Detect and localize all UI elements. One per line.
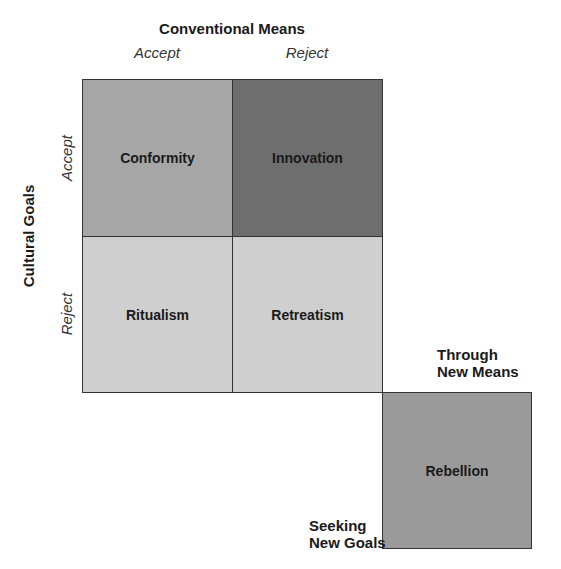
cell-rebellion: Rebellion [382, 392, 532, 549]
cell-label: Retreatism [271, 307, 343, 323]
cell-retreatism: Retreatism [232, 236, 383, 393]
cell-label: Ritualism [126, 307, 189, 323]
note-line: New Means [437, 363, 519, 380]
cell-conformity: Conformity [82, 79, 233, 237]
column-label-reject: Reject [232, 44, 382, 61]
through-new-means-note: Through New Means [437, 346, 519, 380]
cell-innovation: Innovation [232, 79, 383, 237]
row-label-reject: Reject [58, 293, 75, 336]
column-label-accept: Accept [82, 44, 232, 61]
cell-label: Conformity [120, 150, 195, 166]
cell-label: Rebellion [425, 463, 488, 479]
cell-ritualism: Ritualism [82, 236, 233, 393]
row-label-accept: Accept [58, 135, 75, 181]
cultural-goals-title: Cultural Goals [20, 185, 37, 288]
cell-label: Innovation [272, 150, 343, 166]
note-line: New Goals [309, 534, 386, 551]
conventional-means-title: Conventional Means [82, 20, 382, 37]
note-line: Through [437, 346, 519, 363]
seeking-new-goals-note: Seeking New Goals [309, 517, 386, 551]
note-line: Seeking [309, 517, 386, 534]
